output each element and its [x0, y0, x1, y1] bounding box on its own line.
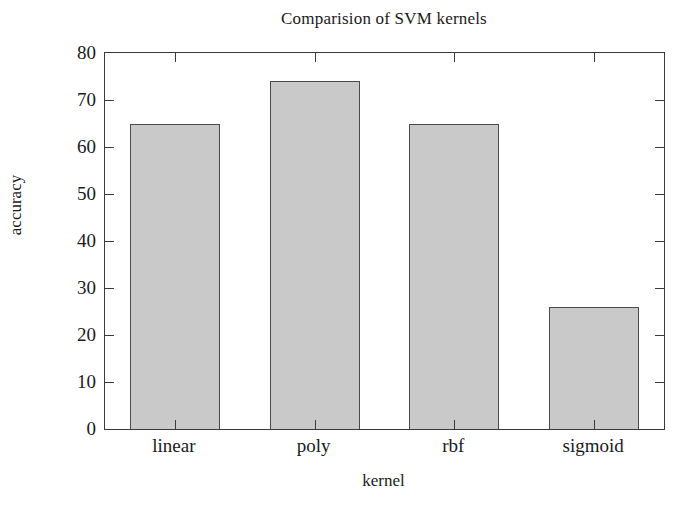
y-tick-label: 30	[0, 278, 96, 297]
x-axis-tick-mark	[454, 420, 455, 429]
x-axis-tick-mark	[594, 420, 595, 429]
y-tick-label: 60	[0, 137, 96, 156]
y-tick-label: 50	[0, 184, 96, 203]
y-axis-tick-mark	[105, 241, 114, 242]
y-axis-tick-mark	[105, 335, 114, 336]
y-tick-label: 80	[0, 43, 96, 62]
y-tick-label: 20	[0, 325, 96, 344]
chart-title: Comparision of SVM kernels	[104, 8, 664, 30]
y-axis-tick-mark	[105, 147, 114, 148]
x-tick-label-poly: poly	[234, 434, 394, 458]
x-tick-label-linear: linear	[94, 434, 254, 458]
bar-sigmoid	[549, 307, 639, 429]
x-axis-tick-mark	[594, 53, 595, 62]
y-axis-tick-mark	[105, 100, 114, 101]
y-axis-tick-mark	[655, 335, 664, 336]
x-tick-label-rbf: rbf	[373, 434, 533, 458]
x-axis-tick-mark	[175, 53, 176, 62]
bar-poly	[270, 81, 360, 429]
y-axis-tick-labels: 01020304050607080	[0, 52, 96, 428]
y-axis-tick-mark	[655, 194, 664, 195]
x-axis-title: kernel	[104, 470, 663, 492]
x-axis-tick-mark	[175, 420, 176, 429]
bar-chart-figure: Comparision of SVM kernels accuracy 0102…	[0, 0, 693, 513]
plot-area	[104, 52, 665, 430]
bar-rbf	[409, 124, 499, 429]
y-axis-tick-mark	[655, 147, 664, 148]
y-tick-label: 0	[0, 419, 96, 438]
bar-linear	[130, 124, 220, 430]
y-tick-label: 70	[0, 90, 96, 109]
y-axis-tick-mark	[655, 241, 664, 242]
x-tick-label-sigmoid: sigmoid	[513, 434, 673, 458]
x-axis-tick-mark	[454, 53, 455, 62]
y-axis-tick-mark	[105, 382, 114, 383]
y-axis-tick-mark	[655, 100, 664, 101]
x-axis-tick-mark	[315, 53, 316, 62]
y-axis-tick-mark	[105, 194, 114, 195]
y-axis-tick-mark	[105, 288, 114, 289]
y-axis-tick-mark	[655, 382, 664, 383]
x-axis-tick-mark	[315, 420, 316, 429]
y-axis-tick-mark	[655, 288, 664, 289]
y-tick-label: 10	[0, 372, 96, 391]
y-tick-label: 40	[0, 231, 96, 250]
x-axis-tick-labels: linearpolyrbfsigmoid	[104, 434, 663, 462]
